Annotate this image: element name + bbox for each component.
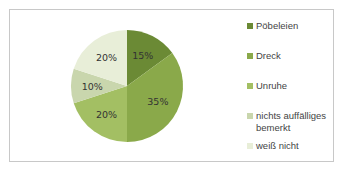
legend-swatch — [247, 113, 253, 119]
legend-swatch — [247, 83, 253, 89]
legend-label: nichts auffälliges bemerkt — [256, 110, 332, 134]
slice-percent-label: 20% — [96, 109, 117, 120]
legend-swatch — [247, 53, 253, 59]
legend-label: Pöbeleien — [256, 20, 298, 32]
legend-item-unruhe: Unruhe — [247, 80, 287, 92]
legend-item-poebeleien: Pöbeleien — [247, 20, 298, 32]
legend-label: weiß nicht — [256, 140, 299, 152]
slice-percent-label: 15% — [132, 50, 153, 61]
legend-item-dreck: Dreck — [247, 50, 281, 62]
legend-swatch — [247, 23, 253, 29]
slice-percent-label: 20% — [96, 52, 117, 63]
legend-label: Unruhe — [256, 80, 287, 92]
slice-percent-label: 35% — [147, 96, 168, 107]
slice-percent-label: 10% — [82, 81, 103, 92]
legend-item-nichts-auffaelliges: nichts auffälliges bemerkt — [247, 110, 332, 134]
legend-swatch — [247, 143, 253, 149]
legend-label: Dreck — [256, 50, 281, 62]
legend-item-weiss-nicht: weiß nicht — [247, 140, 299, 152]
